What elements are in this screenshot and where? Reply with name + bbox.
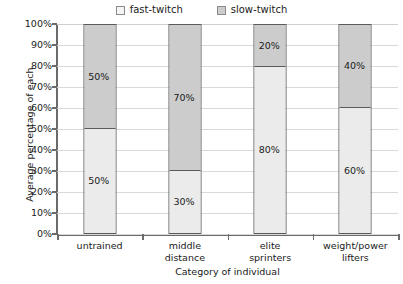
x-axis-category-label: elitesprinters — [228, 240, 313, 263]
y-axis-tick-label: 30% — [8, 166, 52, 176]
x-axis-category-label: middledistance — [142, 240, 227, 263]
bar-segment-fast-twitch[interactable]: 80% — [255, 67, 286, 233]
bar-segment-fast-twitch[interactable]: 50% — [84, 129, 115, 233]
x-axis-category-label-line: weight/power — [313, 240, 398, 252]
x-axis-category-label: untrained — [57, 240, 142, 252]
legend-label-slow-twitch: slow-twitch — [231, 5, 288, 15]
bar-segment-fast-twitch[interactable]: 60% — [340, 108, 371, 233]
legend-swatch-fast-twitch-icon — [116, 6, 125, 15]
bar-segment-slow-twitch[interactable]: 50% — [84, 25, 115, 129]
x-axis-category-label-line: distance — [142, 252, 227, 264]
x-axis-category-label-line: middle — [142, 240, 227, 252]
y-axis-tick-label: 20% — [8, 187, 52, 197]
stacked-bar[interactable]: 40%60% — [339, 24, 372, 234]
x-axis-category-label-line: untrained — [57, 240, 142, 252]
y-axis-tick-label: 50% — [8, 124, 52, 134]
bar-segment-slow-twitch[interactable]: 70% — [169, 25, 200, 171]
legend-item-slow-twitch[interactable]: slow-twitch — [217, 5, 288, 15]
bar-segment-label: 20% — [259, 41, 280, 51]
bar-segment-label: 80% — [259, 145, 280, 155]
stacked-bar[interactable]: 50%50% — [83, 24, 116, 234]
bar-slot: 20%80% — [228, 24, 313, 234]
plot-area: 50%50%70%30%20%80%40%60% — [57, 24, 398, 234]
bar-segment-label: 60% — [344, 166, 365, 176]
legend-item-fast-twitch[interactable]: fast-twitch — [116, 5, 183, 15]
y-axis-tick-label: 80% — [8, 61, 52, 71]
bar-segment-label: 40% — [344, 61, 365, 71]
x-axis-title: Category of individual — [57, 266, 398, 277]
bar-slot: 70%30% — [142, 24, 227, 234]
x-axis-category-label: weight/powerlifters — [313, 240, 398, 263]
y-axis-tick-label: 40% — [8, 145, 52, 155]
x-axis-category-label-line: elite — [228, 240, 313, 252]
bar-segment-slow-twitch[interactable]: 20% — [255, 25, 286, 67]
bar-slot: 40%60% — [313, 24, 398, 234]
legend-swatch-slow-twitch-icon — [217, 6, 226, 15]
stacked-bar[interactable]: 70%30% — [168, 24, 201, 234]
bar-segment-fast-twitch[interactable]: 30% — [169, 171, 200, 233]
y-axis-tick-label: 100% — [8, 19, 52, 29]
bar-slot: 50%50% — [57, 24, 142, 234]
bar-segment-slow-twitch[interactable]: 40% — [340, 25, 371, 108]
chart-legend: fast-twitch slow-twitch — [0, 1, 403, 19]
bar-segment-label: 50% — [88, 72, 109, 82]
x-axis-tick-mark — [398, 234, 400, 240]
bar-segment-label: 70% — [173, 93, 194, 103]
legend-label-fast-twitch: fast-twitch — [130, 5, 183, 15]
y-axis-tick-label: 0% — [8, 229, 52, 239]
y-axis-tick-label: 90% — [8, 40, 52, 50]
y-axis-tick-label: 10% — [8, 208, 52, 218]
y-axis-tick-label: 70% — [8, 82, 52, 92]
x-axis-category-label-line: sprinters — [228, 252, 313, 264]
stacked-bar-chart: fast-twitch slow-twitch Average percenta… — [0, 0, 403, 284]
bar-segment-label: 30% — [173, 197, 194, 207]
y-axis-tick-label: 60% — [8, 103, 52, 113]
x-axis-category-label-line: lifters — [313, 252, 398, 264]
stacked-bar[interactable]: 20%80% — [254, 24, 287, 234]
bar-segment-label: 50% — [88, 176, 109, 186]
